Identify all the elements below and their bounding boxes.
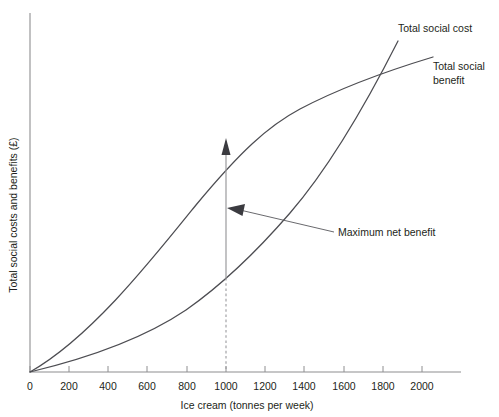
curve-total-social-cost xyxy=(30,41,398,372)
x-tick-label-1600: 1600 xyxy=(332,380,356,392)
axes-group xyxy=(30,13,461,372)
x-tick-label-400: 400 xyxy=(99,380,117,392)
chart-figure: Maximum net benefit Total social cost To… xyxy=(0,0,499,417)
y-axis-title: Total social costs and benefits (£) xyxy=(7,137,19,292)
x-tick-label-1800: 1800 xyxy=(371,380,395,392)
up-arrow-head-icon xyxy=(222,138,231,155)
x-axis-title: Ice cream (tonnes per week) xyxy=(180,399,313,411)
curve-total-social-benefit xyxy=(30,57,433,372)
x-tick-label-2000: 2000 xyxy=(410,380,434,392)
x-tick-label-800: 800 xyxy=(178,380,196,392)
x-axis-tick-labels: 0 200 400 600 800 1000 1200 1400 1600 18… xyxy=(27,380,434,392)
x-tick-label-1400: 1400 xyxy=(292,380,316,392)
series-label-total-social-benefit-line2: benefit xyxy=(433,74,465,86)
annotation-leader-line xyxy=(240,210,334,232)
x-tick-label-1200: 1200 xyxy=(253,380,277,392)
left-arrow-head-icon xyxy=(227,204,245,216)
x-tick-label-200: 200 xyxy=(60,380,78,392)
series-label-total-social-cost: Total social cost xyxy=(398,22,472,34)
x-tick-label-1000: 1000 xyxy=(214,380,238,392)
x-tick-label-600: 600 xyxy=(138,380,156,392)
x-tick-label-0: 0 xyxy=(27,380,33,392)
annotation-label-maximum-net-benefit: Maximum net benefit xyxy=(338,226,436,238)
optimum-output-marker xyxy=(222,138,231,370)
series-label-total-social-benefit-line1: Total social xyxy=(433,60,485,72)
maximum-net-benefit-annotation: Maximum net benefit xyxy=(227,204,436,238)
chart-canvas: Maximum net benefit Total social cost To… xyxy=(0,0,499,417)
